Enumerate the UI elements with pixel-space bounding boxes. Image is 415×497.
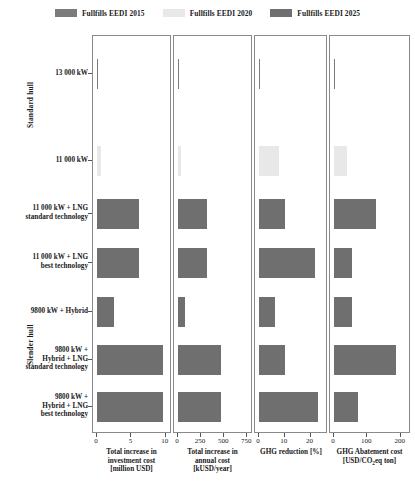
bar-0	[259, 59, 260, 89]
bar-4	[178, 297, 185, 327]
xaxis-investment-cost: 0510	[92, 433, 171, 439]
xticklabel-0: 0	[175, 437, 179, 445]
bar-2	[178, 199, 207, 229]
category-label-6: 9800 kW + Hybrid + LNG best technology	[2, 393, 88, 419]
legend-item-eedi-2025: Fullfills EEDI 2025	[270, 9, 360, 18]
bar-5	[259, 345, 285, 375]
xticklabel-10: 10	[161, 437, 168, 445]
plot-area	[330, 36, 409, 432]
bar-1	[334, 146, 347, 176]
bar-6	[334, 392, 358, 422]
category-label-2: 11 000 kW + LNG standard technology	[2, 204, 88, 221]
xticklabel-500: 500	[218, 437, 229, 445]
xaxis-title-ghg-reduction: GHG reduction [%]	[247, 448, 335, 457]
bar-5	[178, 345, 221, 375]
legend-label-eedi-2015: Fullfills EEDI 2015	[82, 9, 145, 18]
plot-area	[93, 36, 170, 432]
xticklabel-250: 250	[195, 437, 206, 445]
plot-area	[174, 36, 251, 432]
bar-6	[259, 392, 318, 422]
bar-2	[97, 199, 139, 229]
category-label-5: 9800 kW + Hybrid + LNG standard technolo…	[2, 346, 88, 372]
xaxis-annual-cost: 0250500750	[173, 433, 252, 439]
bar-4	[259, 297, 275, 327]
figure-root: Fullfills EEDI 2015 Fullfills EEDI 2020 …	[0, 0, 415, 497]
xaxis-abatement-cost: 0100200	[329, 433, 410, 439]
bar-2	[334, 199, 376, 229]
bar-0	[97, 59, 98, 89]
legend-item-eedi-2020: Fullfills EEDI 2020	[163, 9, 253, 18]
bar-0	[178, 59, 179, 89]
xticklabel-20: 20	[306, 437, 313, 445]
bar-4	[334, 297, 352, 327]
bar-4	[97, 297, 114, 327]
xticklabel-750: 750	[241, 437, 252, 445]
bar-6	[97, 392, 163, 422]
legend-swatch-eedi-2020	[163, 9, 185, 17]
bar-0	[334, 59, 335, 89]
panel-abatement-cost	[329, 35, 410, 433]
bar-2	[259, 199, 285, 229]
bar-1	[178, 146, 181, 176]
bar-3	[334, 248, 352, 278]
xticklabel-0: 0	[256, 437, 260, 445]
bar-3	[259, 248, 315, 278]
panel-ghg-reduction	[254, 35, 327, 433]
category-axis: 13 000 kW 11 000 kW 11 000 kW + LNG stan…	[0, 0, 88, 497]
category-label-4: 9800 kW + Hybrid	[2, 307, 88, 316]
xticklabel-5: 5	[129, 437, 133, 445]
xaxis-title-abatement-cost: GHG Abatement cost[USD/CO2eq ton]	[323, 448, 415, 468]
legend-label-eedi-2020: Fullfills EEDI 2020	[190, 9, 253, 18]
category-label-1: 11 000 kW	[2, 156, 88, 165]
xaxis-ghg-reduction: 01020	[254, 433, 327, 439]
bar-6	[178, 392, 221, 422]
xticklabel-10: 10	[280, 437, 287, 445]
bar-3	[97, 248, 139, 278]
bar-5	[334, 345, 396, 375]
panel-annual-cost	[173, 35, 252, 433]
bar-3	[178, 248, 207, 278]
plot-area	[255, 36, 326, 432]
legend-swatch-eedi-2025	[270, 9, 292, 17]
bar-1	[259, 146, 279, 176]
xticklabel-0: 0	[94, 437, 98, 445]
xticklabel-0: 0	[331, 437, 335, 445]
xticklabel-100: 100	[361, 437, 372, 445]
bar-1	[97, 146, 101, 176]
category-label-0: 13 000 kW	[2, 69, 88, 78]
category-label-3: 11 000 kW + LNG best technology	[2, 253, 88, 270]
bar-5	[97, 345, 163, 375]
legend-label-eedi-2025: Fullfills EEDI 2025	[297, 9, 360, 18]
panel-investment-cost	[92, 35, 171, 433]
xticklabel-200: 200	[394, 437, 405, 445]
